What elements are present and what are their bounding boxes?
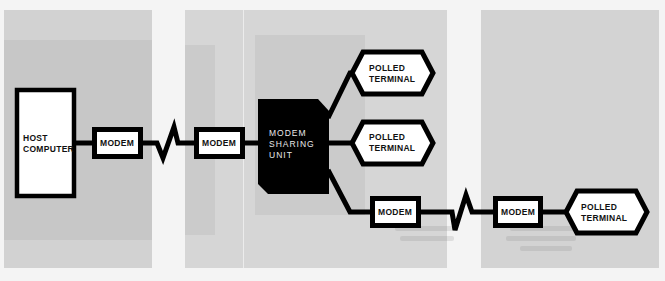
terminal-1-label: POLLED TERMINAL [369,63,415,84]
modem-4-label: MODEM [501,207,535,218]
wire-sharing-terminal1 [328,73,356,118]
terminal-2-label: POLLED TERMINAL [369,132,415,153]
modem-2-label: MODEM [202,138,236,149]
modem-3-label: MODEM [378,207,412,218]
modem-1-label: MODEM [100,138,134,149]
modem-sharing-unit-label: MODEM SHARING UNIT [269,128,315,161]
terminal-3-label: POLLED TERMINAL [581,202,627,223]
telephone-link-1 [141,127,194,158]
telephone-link-2 [418,195,494,230]
host-computer-label: HOST COMPUTER [23,133,74,154]
wire-sharing-modem3 [328,170,372,212]
